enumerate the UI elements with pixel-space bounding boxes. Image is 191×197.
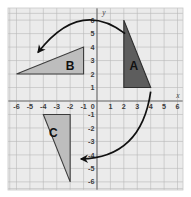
x-tick-label: 1: [108, 102, 112, 111]
x-tick-label: -1: [80, 102, 86, 111]
y-tick-label: 1: [91, 83, 95, 92]
coordinate-plane-figure: -6-5-4-3-2-10123456 -6-5-4-3-2-1123456 x…: [0, 0, 191, 197]
y-axis-label: y: [101, 8, 106, 17]
x-tick-label: -5: [27, 102, 33, 111]
x-axis-label: x: [175, 91, 180, 100]
x-tick-label: 3: [135, 102, 139, 111]
x-tick-label: -3: [54, 102, 60, 111]
y-tick-label: 5: [91, 29, 95, 38]
triangle-b-label: B: [66, 59, 75, 73]
triangle-a-label: A: [130, 59, 139, 73]
y-tick-label: 3: [91, 56, 95, 65]
plot-background: [8, 8, 183, 190]
y-tick-label: 2: [91, 70, 95, 79]
x-tick-label: 2: [122, 102, 126, 111]
y-tick-label: 4: [91, 43, 95, 52]
x-tick-label: 4: [149, 102, 153, 111]
x-tick-label: -6: [13, 102, 19, 111]
x-tick-label: -2: [67, 102, 73, 111]
y-tick-label: -1: [88, 110, 94, 119]
y-tick-label: -3: [88, 137, 94, 146]
triangle-c-label: C: [49, 126, 58, 140]
y-tick-label: -6: [88, 177, 94, 186]
x-tick-label: -4: [40, 102, 46, 111]
x-tick-label: 5: [162, 102, 166, 111]
y-tick-label: -5: [88, 164, 94, 173]
x-tick-label: 6: [176, 102, 180, 111]
y-tick-label: -2: [88, 124, 94, 133]
coordinate-plane-svg: -6-5-4-3-2-10123456 -6-5-4-3-2-1123456 x…: [0, 0, 191, 197]
